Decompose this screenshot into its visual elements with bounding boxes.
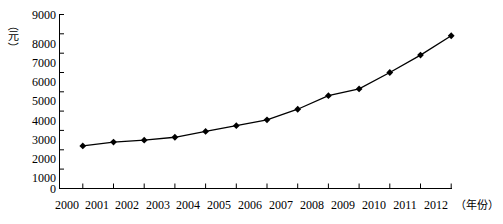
x-axis-caption: （年份） [455, 199, 499, 211]
x-tick-label: 2012 [415, 199, 457, 211]
x-axis-tick-labels: 2000 2001 2002 2003 2004 2005 2006 2007 … [0, 0, 503, 224]
line-chart: （ 元 ） 9000 8000 7000 6000 5000 4000 3000… [0, 0, 503, 224]
